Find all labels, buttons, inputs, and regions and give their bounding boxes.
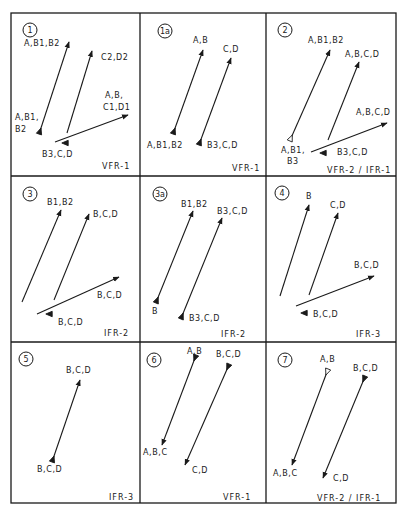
panel-4: 4BC,DB,C,DB,C,DIFR-3 [275,186,381,339]
panel-7: 7A,BB,C,DA,B,CC,DVFR-2 / IFR-1 [273,353,381,503]
vector-label: B3,C,D [217,207,248,216]
vector-arrow [200,58,231,142]
filled-triangle-icon [363,375,368,382]
vector-arrow [323,379,364,478]
panel-number: 1 [27,26,32,35]
panel-number-badge: 1 [23,23,37,37]
vector-label: A,B,C,D [345,50,380,59]
vector-label: B1,B2 [47,198,74,207]
filled-triangle-icon [46,311,52,316]
vector-label: A,B1, [15,113,39,122]
flight-rule-caption: IFR-3 [356,330,381,339]
vector-label: C,D [192,466,208,475]
grid-border [11,13,396,503]
vector-label: C1,D1 [103,103,130,112]
vector-label: B,C,D [66,366,91,375]
vector-arrow [291,50,330,138]
flight-rule-caption: VFR-1 [223,493,251,502]
vector-label: C,D [333,474,349,483]
figure-grid: 1A,B1,B2C2,D2A,B,C1,D1A,B1,B2B3,C,DVFR-1… [0,0,406,518]
vector-label: B,C,D [313,310,338,319]
vector-arrow [296,276,374,306]
panel-number-badge: 3a [153,187,167,201]
panel-number-badge: 4 [275,186,289,200]
vector-label: A,B [320,355,335,364]
vector-label: A,B1, [281,146,305,155]
vector-arrow [185,367,228,465]
vector-label: A,B1,B2 [24,39,60,48]
filled-triangle-icon [301,310,307,315]
vector-label: A,B [187,347,202,356]
vector-label: B,C,D [93,210,118,219]
flight-rule-caption: VFR-1 [232,164,260,173]
open-triangle-icon [326,368,331,375]
vector-label: A,B [193,36,208,45]
filled-triangle-icon [153,297,158,304]
panel-number-badge: 7 [278,353,292,367]
vector-label: A,B,C [273,469,298,478]
panels: 1A,B1,B2C2,D2A,B,C1,D1A,B1,B2B3,C,DVFR-1… [15,23,391,503]
vector-arrow [328,62,359,140]
panel-number: 4 [279,189,284,198]
vector-label: B3 [287,157,299,166]
panel-number: 1a [160,27,170,36]
vector-label: A,B1,B2 [308,36,344,45]
panel-1a: 1aA,BC,DA,B1,B2B3,C,DVFR-1 [147,24,260,173]
panel-number-badge: 2 [278,23,292,37]
flight-rule-caption: VFR-1 [102,162,130,171]
vector-label: C,D [330,201,346,210]
vector-arrow [162,358,195,445]
vector-label: A,B, [105,91,123,100]
filled-triangle-icon [320,150,326,155]
vector-label: B3,C,D [42,150,73,159]
vector-label: A,B1,B2 [147,141,183,150]
vector-arrow [54,214,89,300]
vector-arrow [280,205,309,296]
panel-number-badge: 6 [147,353,161,367]
vector-label: B,C,D [58,318,83,327]
filled-triangle-icon [62,140,68,145]
vector-label: B,C,D [216,350,241,359]
flight-rule-caption: IFR-3 [109,493,134,502]
vector-arrow [67,51,92,133]
filled-triangle-icon [227,363,232,370]
filled-triangle-icon [49,456,54,463]
vector-arrow [22,210,61,302]
vector-label: C2,D2 [101,53,128,62]
vector-label: B3,C,D [207,141,238,150]
panel-number: 3a [155,190,165,199]
vector-arrow [40,42,69,131]
panel-number: 2 [282,26,287,35]
filled-triangle-icon [36,128,41,135]
vector-arrow [174,50,203,131]
vector-label: B2 [15,125,27,134]
flight-rule-caption: IFR-2 [221,330,246,339]
panel-number: 6 [151,356,156,365]
panel-3: 3B1,B2B,C,DB,C,DB,C,DIFR-2 [22,187,129,338]
vector-label: B1,B2 [181,200,208,209]
panel-number: 3 [27,190,32,199]
vector-label: B3,C,D [189,314,220,323]
grid-lines [11,13,396,503]
vector-arrow [157,211,193,300]
flight-rule-caption: VFR-2 / IFR-1 [327,166,391,175]
vector-label: B,C,D [97,291,122,300]
panel-number-badge: 3 [23,187,37,201]
flight-rule-caption: IFR-2 [104,329,129,338]
vector-arrow [182,218,222,316]
vector-arrow [292,372,327,465]
panel-5: 5B,C,DB,C,DIFR-3 [19,352,134,502]
vector-label: B3,C,D [337,148,368,157]
panel-3a: 3aB1,B2B3,C,DBB3,C,DIFR-2 [152,187,248,339]
vector-label: B,C,D [354,261,379,270]
vector-label: B,C,D [353,364,378,373]
panel-number: 5 [23,355,28,364]
vector-label: A,B,C,D [356,108,391,117]
panel-6: 6A,BB,C,DA,B,CC,DVFR-1 [143,347,251,502]
vector-label: B [152,307,158,316]
panel-number-badge: 1a [158,24,172,38]
open-triangle-icon [287,135,292,142]
panel-1: 1A,B1,B2C2,D2A,B,C1,D1A,B1,B2B3,C,DVFR-1 [15,23,130,171]
vector-label: A,B,C [143,448,168,457]
vector-label: B,C,D [37,465,62,474]
